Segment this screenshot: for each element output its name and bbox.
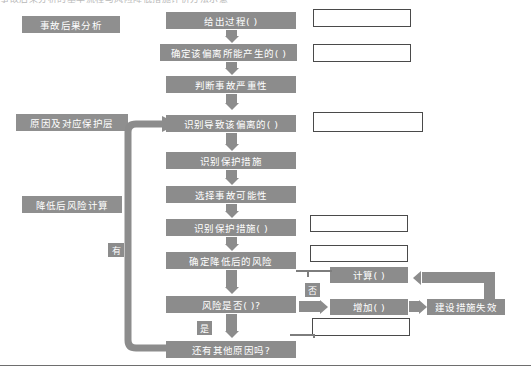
node-label: 确定降低后的风险 (189, 254, 272, 268)
arrow-down-2-head (225, 68, 239, 75)
node-calculate: 计算( ) (330, 267, 408, 283)
annotation-box-3[interactable] (313, 112, 423, 132)
arrow-down-9-head (225, 331, 239, 338)
connector-residual-to-calculate (296, 270, 332, 272)
node-judge-severity: 判断事故严重性 (166, 76, 296, 93)
tag-no: 否 (305, 283, 320, 297)
annotation-box-5[interactable] (310, 245, 408, 262)
node-label: 计算( ) (353, 268, 385, 282)
stage-label-residual-risk: 降低后风险计算 (22, 196, 122, 213)
arrow-down-5-head (225, 178, 239, 185)
annotation-box-2[interactable] (313, 44, 411, 62)
node-identify-protection: 识别保护措施 (166, 152, 296, 169)
connector-other-causes-hook-v (313, 334, 315, 338)
arrow-down-3-head (225, 103, 239, 110)
node-label: 建设措施失效 (435, 300, 497, 314)
tag-label: 是 (200, 322, 209, 335)
stage-label-text: 事故后果分析 (40, 18, 102, 32)
node-label: 风险是否( )? (202, 298, 261, 312)
node-measure-failure: 建设措施失效 (427, 299, 505, 315)
arrow-down-6-head (225, 211, 239, 218)
stage-label-text: 降低后风险计算 (36, 198, 109, 212)
tag-label: 否 (308, 284, 317, 297)
connector-calculate-up-vertical (307, 271, 309, 277)
page-bottom-rule (0, 365, 531, 367)
arrow-right-to-increase-shaft (299, 301, 321, 312)
annotation-box-6[interactable] (312, 318, 410, 336)
node-determine-residual-risk: 确定降低后的风险 (166, 252, 296, 269)
node-label: 增加( ) (353, 300, 385, 314)
stage-label-consequence: 事故后果分析 (22, 16, 120, 33)
page-top-cut-text: 事故后果分析的基本流程与风险降低措施评价方法示意 (0, 0, 531, 9)
node-identify-cause: 识别导致该偏离的( ) (166, 115, 296, 132)
node-label: 识别保护措施 (200, 154, 262, 168)
arrow-return-head (413, 271, 421, 285)
node-label: 判断事故严重性 (195, 78, 268, 92)
arrow-down-4-head (225, 144, 239, 151)
arrow-down-8-head (225, 287, 239, 294)
node-label: 给出过程( ) (204, 14, 257, 28)
stage-label-cause-protection: 原因及对应保护层 (16, 114, 128, 131)
node-label: 确定该偏离所能产生的( ) (171, 46, 287, 60)
connector-other-causes-hook-h (290, 334, 314, 336)
node-determine-deviation: 确定该偏离所能产生的( ) (160, 44, 297, 61)
annotation-box-1[interactable] (313, 9, 411, 27)
arrow-down-8-shaft (226, 270, 237, 288)
node-increase: 增加( ) (330, 299, 408, 315)
stage-label-text: 原因及对应保护层 (30, 116, 113, 130)
node-give-process: 给出过程( ) (166, 12, 296, 29)
arrow-right-to-increase-head (320, 300, 328, 314)
node-label: 还有其他原因吗? (192, 343, 270, 357)
node-label: 选择事故可能性 (195, 188, 268, 202)
arrow-down-9-shaft (226, 314, 237, 332)
top-cut-label: 事故后果分析的基本流程与风险降低措施评价方法示意 (0, 0, 228, 4)
node-select-likelihood: 选择事故可能性 (166, 186, 296, 203)
node-label: 识别导致该偏离的( ) (184, 117, 279, 131)
flowchart-canvas: 事故后果分析的基本流程与风险降低措施评价方法示意 事故后果分析 原因及对应保护层… (0, 0, 531, 372)
node-label: 识别保护措施( ) (194, 221, 268, 235)
arrow-return-horizontal-shaft (422, 272, 495, 283)
node-risk-decision: 风险是否( )? (166, 296, 296, 313)
arrow-down-1-head (225, 36, 239, 43)
annotation-box-4[interactable] (310, 215, 408, 232)
node-identify-protection-2: 识别保护措施( ) (166, 219, 296, 236)
loop-back-arrow-has (118, 110, 180, 352)
tag-yes: 是 (197, 321, 212, 335)
arrow-down-7-head (225, 244, 239, 251)
node-other-causes: 还有其他原因吗? (166, 341, 296, 358)
arrow-increase-to-failure-head (419, 300, 427, 314)
